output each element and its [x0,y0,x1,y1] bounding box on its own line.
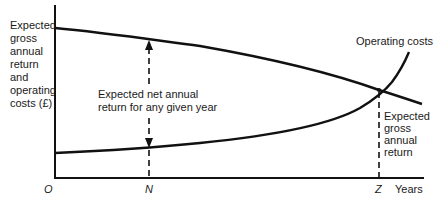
y-label-line: annual [10,45,56,58]
y-label-line: return [10,58,56,71]
y-label-line: gross [10,32,56,45]
net-return-line: Expected net annual [98,88,217,101]
arrow-up-icon [145,40,153,50]
gross-return-line: Expected [384,110,430,122]
net-return-line: return for any given year [98,101,217,114]
operating-costs-label: Operating costs [356,35,433,48]
n-marker-label: N [145,183,153,196]
origin-label: O [44,183,53,196]
net-return-label: Expected net annual return for any given… [98,87,217,115]
chart-canvas [0,0,436,208]
y-label-line: and [10,71,56,84]
gross-return-line: gross [384,122,430,134]
gross-return-label: Expected gross annual return [384,110,430,158]
y-label-line: Expected [10,19,56,32]
gross-return-line: annual [384,134,430,146]
z-marker-label: Z [375,183,382,196]
x-axis-label: Years [395,183,423,196]
y-axis-label: Expected gross annual return and operati… [10,19,56,110]
gross-return-line: return [384,146,430,158]
y-label-line: operating [10,84,56,97]
intersection-point [377,88,381,92]
y-label-line: costs (£) [10,97,56,110]
